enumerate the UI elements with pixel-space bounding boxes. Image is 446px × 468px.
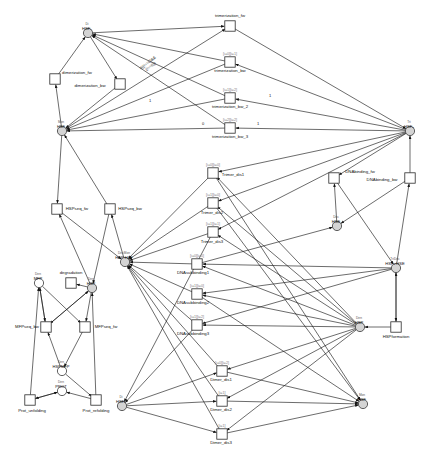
transition-label-dnasub2: DNAsubbinding2 xyxy=(177,300,210,305)
place-label-hsphsf: HSP:HSF xyxy=(115,255,133,260)
arc-hsp_right-to-dimer3 xyxy=(226,330,356,431)
transition-guard-tri_bw: [i=0][i=1] xyxy=(223,52,237,56)
transition-label-prot_ref: Prot_refolding xyxy=(83,408,110,413)
arc-weight-label-2: 1 xyxy=(269,93,272,98)
transition-guard-tri_bw2: [i=1][i=2] xyxy=(223,88,237,92)
transition-label-dimer1: Dimer_dis1 xyxy=(210,377,232,382)
transition-trimer3[interactable] xyxy=(208,227,218,237)
arc-hspseq_bw-to-hsp_left xyxy=(93,214,109,283)
arc-hsf_mon-to-tri_fw xyxy=(66,29,225,129)
arc-dimer1-to-hsphsf xyxy=(128,265,218,367)
transition-hspseq_fw[interactable] xyxy=(52,204,62,214)
arc-hsf2b-to-dimer1 xyxy=(126,373,216,405)
transition-degrad[interactable] xyxy=(66,278,76,288)
place-label-hsf2: HSF₂ xyxy=(82,26,92,31)
arc-prot_ref-to-prot xyxy=(66,392,91,398)
transition-tri_bw2[interactable] xyxy=(225,93,235,103)
transition-label-trimer3: Trimer_dis3 xyxy=(201,239,224,244)
place-label-hsf3hse: HSF₃:HSE xyxy=(385,261,405,266)
transition-label-tri_bw2: trimerization_bw_2 xyxy=(212,104,249,109)
transition-label-dimer3: Dimer_dis3 xyxy=(210,440,232,445)
transition-tri_bw[interactable] xyxy=(225,57,235,67)
arc-hsp_right-to-dnasub2 xyxy=(202,295,355,326)
arc-prot_ref-to-hsp_left xyxy=(92,293,96,395)
transition-label-hspseq_fw: HSPseq_fw xyxy=(66,206,89,211)
place-role-hsp_right: Den xyxy=(356,316,362,320)
transition-hspseq_bw[interactable] xyxy=(105,204,115,214)
arc-hsf2b-to-dimer2 xyxy=(127,401,217,405)
transition-label-tri_bw: trimerization_bw xyxy=(214,68,246,73)
transition-dnasub2[interactable] xyxy=(192,289,202,299)
transition-dimer1[interactable] xyxy=(217,366,227,376)
arc-weight-label-4: 1 xyxy=(257,121,260,126)
place-label-hsp_left: HSP xyxy=(87,281,96,286)
arc-dimer2-to-hsf_bot xyxy=(227,401,358,404)
arc-hsp_right-to-dnasub3 xyxy=(203,325,356,327)
transition-label-tri_bw3: trimerization_bw_3 xyxy=(212,134,249,139)
transition-guard-trimer1: [i=0][i=0] xyxy=(206,163,220,167)
transition-dim_bw[interactable] xyxy=(115,79,125,89)
place-role-hsf_bot: Mon xyxy=(359,393,365,397)
transition-prot_unf[interactable] xyxy=(25,395,35,405)
place-label-hsp_right: HSP xyxy=(355,320,364,325)
transition-dnasub3[interactable] xyxy=(192,320,202,330)
arc-tri_fw-to-hsf3 xyxy=(234,29,406,129)
transition-tri_bw3[interactable] xyxy=(225,123,235,133)
transition-dimer2[interactable] xyxy=(217,396,227,406)
transition-label-tri_fw: trimerization_fw xyxy=(215,13,246,18)
arc-weight-label-1: 1 xyxy=(149,98,152,103)
transition-guard-tri_bw3: [i=2][i=2] xyxy=(223,118,237,122)
arc-hsf3-to-tri_bw2 xyxy=(236,99,406,130)
transition-label-dna_bw: DNAbinding_bw xyxy=(367,177,399,182)
transition-label-hspform: HSPformation xyxy=(383,334,410,339)
transition-mfpseq_bw[interactable] xyxy=(41,322,51,332)
arc-mfpseq_fw-to-hspmfp xyxy=(64,332,82,367)
arc-tri_bw2-to-hsf2 xyxy=(92,35,225,96)
transition-guard-dimer3: [i=1] xyxy=(219,424,226,428)
transition-mfpseq_fw[interactable] xyxy=(80,322,90,332)
transition-dim_fw[interactable] xyxy=(50,74,60,84)
arc-trimer2-to-hsphsf xyxy=(129,206,209,260)
transition-tri_fw[interactable] xyxy=(225,21,235,31)
transition-label-hspseq_bw: HSPseq_bw xyxy=(118,206,143,211)
transition-dnasub1[interactable] xyxy=(192,259,202,269)
arc-hsf3hse-to-dna_bw xyxy=(397,184,409,264)
transition-hspform[interactable] xyxy=(391,322,401,332)
place-role-hsf3: Tri xyxy=(407,120,411,124)
transition-label-dnasub3: DNAsubbinding3 xyxy=(177,331,210,336)
arc-tri_bw3-to-hsf_mon xyxy=(67,128,225,131)
transition-dna_fw[interactable] xyxy=(329,173,339,183)
arc-weight-label-3: 0 xyxy=(202,121,205,126)
arc-mfp-to-mfpseq_fw xyxy=(42,286,81,323)
arc-hsf3hse-to-dnasub2 xyxy=(203,269,392,294)
transition-label-dimer2: Dimer_dis2 xyxy=(210,407,232,412)
transition-guard-trimer2: [i=1][i=0] xyxy=(206,193,220,197)
arc-dnasub2-to-hsphsf xyxy=(129,264,192,292)
transition-dimer3[interactable] xyxy=(217,429,227,439)
arc-hsf3-to-trimer2 xyxy=(218,133,405,201)
arc-hsf2b-to-dimer3 xyxy=(126,407,216,432)
place-label-hse: HSE xyxy=(332,219,341,224)
place-label-hspmfp: HSPMFP xyxy=(52,364,69,369)
arc-tri_bw-to-hsf2 xyxy=(93,34,225,61)
arc-hsf3-to-tri_bw3 xyxy=(236,128,406,131)
arc-hsf3hse-to-dnasub1 xyxy=(203,264,392,268)
place-role-hse: Dec xyxy=(333,215,339,219)
transition-guard-dnasub1: [i=0][i=0] xyxy=(190,254,204,258)
arc-hsf3-to-tri_bw xyxy=(235,64,405,129)
place-label-hsf3: HSF₃ xyxy=(404,124,414,129)
transition-label-dim_bw: dimerization_bw xyxy=(74,83,106,88)
place-label-hsf_bot: HSF xyxy=(358,397,367,402)
transition-dna_bw[interactable] xyxy=(405,173,415,183)
transition-guard-dimer2: [i=1] xyxy=(219,391,226,395)
petri-net-svg: DiHSF₂MonHSFTriHSF₃DecHSETriDecHSF₃:HSED… xyxy=(0,0,446,468)
arc-dim_fw-to-hsf2 xyxy=(58,37,85,75)
transition-prot_ref[interactable] xyxy=(91,395,101,405)
arc-hspseq_fw-to-hsphsf xyxy=(61,212,121,259)
transition-guard-dnasub2: [i=1][i=0] xyxy=(190,284,204,288)
transition-trimer2[interactable] xyxy=(208,198,218,208)
transition-label-dim_fw: dimerization_fw xyxy=(62,70,93,75)
arc-dimer3-to-hsf_bot xyxy=(227,405,358,433)
arc-hsf_mon-to-hspseq_fw xyxy=(57,136,61,204)
transition-trimer1[interactable] xyxy=(208,168,218,178)
